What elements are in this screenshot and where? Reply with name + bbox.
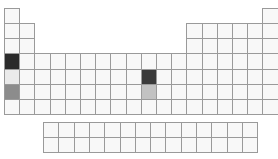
element-cell-p4-g6: [80, 53, 96, 70]
f-block-cell-r2-c2: [58, 137, 75, 153]
element-cell-p5-g9: [126, 69, 142, 85]
element-cell-p5-g12: [171, 69, 187, 85]
f-block-cell-r2-c13: [227, 137, 243, 153]
element-cell-p4-g5: [65, 53, 81, 70]
f-block-cell-r1-c7: [135, 122, 151, 138]
f-block-cell-r1-c4: [89, 122, 105, 138]
element-cell-p2-g1: [4, 23, 20, 39]
element-cell-p7-g6: [80, 99, 96, 115]
f-block-cell-r1-c9: [165, 122, 182, 138]
element-cell-p3-g18: [262, 38, 278, 54]
f-block-cell-r1-c3: [74, 122, 90, 138]
element-cell-p4-g18: [262, 53, 278, 70]
element-cell-p6-g4: [50, 84, 66, 100]
element-cell-p7-g5: [65, 99, 81, 115]
element-cell-p4-g14: [202, 53, 218, 70]
element-cell-p4-g16: [232, 53, 248, 70]
element-cell-p3-g1: [4, 38, 20, 54]
periodic-table-grid: [0, 0, 278, 159]
element-cell-p4-g7: [95, 53, 111, 70]
element-cell-p5-g14: [202, 69, 218, 85]
f-block-cell-r2-c9: [165, 137, 182, 153]
element-cell-p6-g15: [217, 84, 233, 100]
element-cell-p6-g8: [110, 84, 127, 100]
element-cell-p4-g2: [19, 53, 35, 70]
element-cell-p6-g17: [247, 84, 263, 100]
element-cell-p5-g18: [262, 69, 278, 85]
element-cell-p5-g6: [80, 69, 96, 85]
element-cell-p3-g14: [202, 38, 218, 54]
f-block-cell-r2-c10: [181, 137, 197, 153]
f-block-cell-r1-c2: [58, 122, 75, 138]
f-block-cell-r2-c12: [211, 137, 228, 153]
element-cell-p5-g5: [65, 69, 81, 85]
element-cell-p6-g11: [156, 84, 172, 100]
element-cell-p2-g14: [202, 23, 218, 39]
f-block-cell-r1-c5: [104, 122, 121, 138]
f-block-cell-r1-c13: [227, 122, 243, 138]
element-cell-p5-g2: [19, 69, 35, 85]
element-cell-p7-g9: [126, 99, 142, 115]
f-block-cell-r2-c1: [43, 137, 59, 153]
f-block-cell-r1-c10: [181, 122, 197, 138]
element-cell-p2-g18: [262, 23, 278, 39]
element-cell-p4-g1: [4, 53, 20, 70]
f-block-cell-r1-c12: [211, 122, 228, 138]
f-block-cell-r1-c14: [242, 122, 258, 138]
element-cell-p6-g13: [186, 84, 203, 100]
f-block-cell-r2-c5: [104, 137, 121, 153]
element-cell-p7-g13: [186, 99, 203, 115]
element-cell-p6-g16: [232, 84, 248, 100]
f-block-cell-r1-c11: [196, 122, 212, 138]
f-block-cell-r2-c8: [150, 137, 166, 153]
element-cell-p4-g9: [126, 53, 142, 70]
element-cell-p7-g14: [202, 99, 218, 115]
element-cell-p7-g8: [110, 99, 127, 115]
f-block-cell-r2-c4: [89, 137, 105, 153]
f-block-cell-r2-c3: [74, 137, 90, 153]
f-block-cell-r2-c6: [120, 137, 136, 153]
element-cell-p5-g7: [95, 69, 111, 85]
element-cell-p2-g13: [186, 23, 203, 39]
f-block-cell-r2-c7: [135, 137, 151, 153]
element-cell-p5-g3: [34, 69, 51, 85]
element-cell-p6-g2: [19, 84, 35, 100]
element-cell-p5-g13: [186, 69, 203, 85]
element-cell-p1-g18: [262, 8, 278, 24]
element-cell-p7-g4: [50, 99, 66, 115]
element-cell-p2-g17: [247, 23, 263, 39]
element-cell-p2-g15: [217, 23, 233, 39]
element-cell-p6-g1: [4, 84, 20, 100]
element-cell-p4-g17: [247, 53, 263, 70]
element-cell-p7-g2: [19, 99, 35, 115]
element-cell-p6-g12: [171, 84, 187, 100]
element-cell-p7-g18: [262, 99, 278, 115]
element-cell-p4-g15: [217, 53, 233, 70]
element-cell-p3-g13: [186, 38, 203, 54]
element-cell-p6-g6: [80, 84, 96, 100]
element-cell-p5-g8: [110, 69, 127, 85]
f-block-cell-r2-c14: [242, 137, 258, 153]
element-cell-p6-g3: [34, 84, 51, 100]
element-cell-p5-g16: [232, 69, 248, 85]
element-cell-p7-g3: [34, 99, 51, 115]
element-cell-p4-g3: [34, 53, 51, 70]
element-cell-p3-g2: [19, 38, 35, 54]
element-cell-p6-g7: [95, 84, 111, 100]
element-cell-p7-g11: [156, 99, 172, 115]
element-cell-p7-g1: [4, 99, 20, 115]
element-cell-p7-g17: [247, 99, 263, 115]
element-cell-p6-g5: [65, 84, 81, 100]
element-cell-p2-g16: [232, 23, 248, 39]
element-cell-p5-g15: [217, 69, 233, 85]
f-block-cell-r1-c8: [150, 122, 166, 138]
element-cell-p5-g17: [247, 69, 263, 85]
element-cell-p7-g12: [171, 99, 187, 115]
element-cell-p6-g14: [202, 84, 218, 100]
f-block-cell-r2-c11: [196, 137, 212, 153]
f-block-cell-r1-c1: [43, 122, 59, 138]
element-cell-p1-g1: [4, 8, 20, 24]
element-cell-p4-g11: [156, 53, 172, 70]
element-cell-p2-g2: [19, 23, 35, 39]
element-cell-p4-g12: [171, 53, 187, 70]
